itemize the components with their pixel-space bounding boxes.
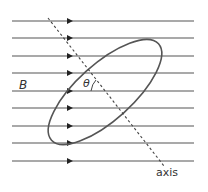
field-label-b: B — [19, 78, 27, 92]
magnetic-flux-diagram — [0, 0, 208, 192]
arrow-right-icon — [67, 158, 73, 164]
angle-arc — [91, 80, 96, 91]
current-loop — [33, 23, 177, 161]
arrow-right-icon — [67, 123, 73, 129]
magnetic-field-lines — [12, 18, 194, 164]
angle-label-theta: θ — [83, 77, 90, 90]
arrow-right-icon — [67, 70, 73, 76]
arrow-right-icon — [67, 18, 73, 24]
arrow-right-icon — [67, 53, 73, 59]
arrow-right-icon — [67, 35, 73, 41]
axis-label: axis — [156, 166, 178, 179]
arrow-right-icon — [67, 105, 73, 111]
